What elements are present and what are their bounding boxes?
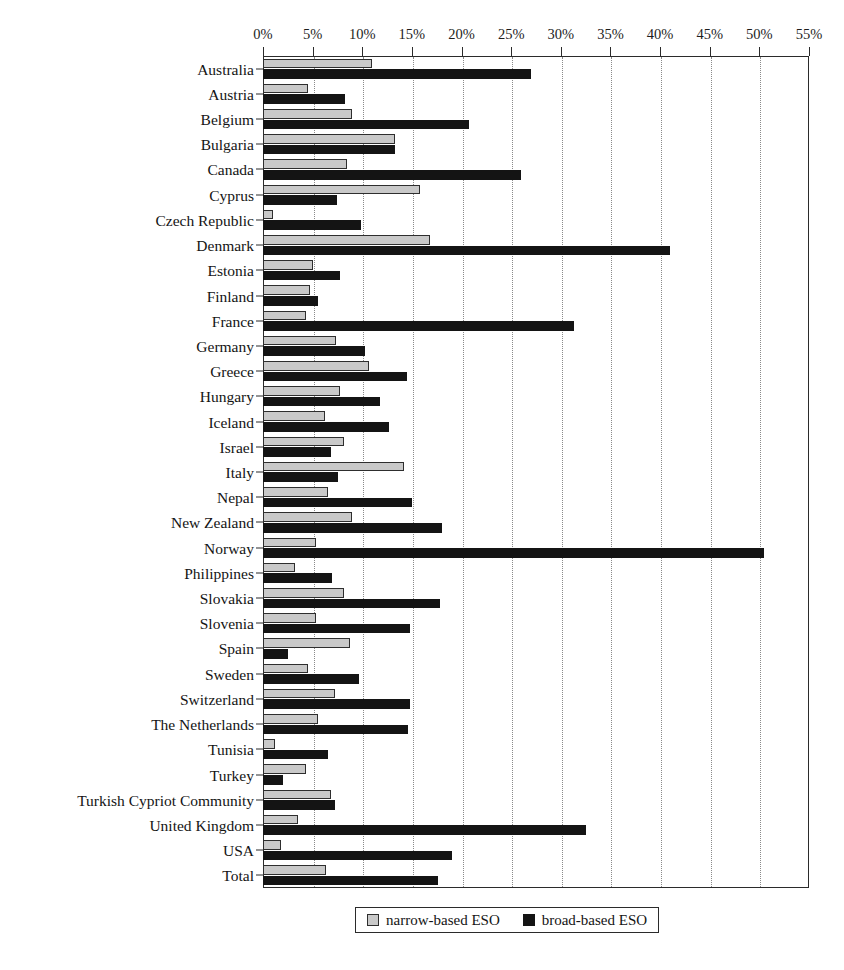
category-label: Estonia [208,262,255,279]
bar-group [263,106,844,131]
category-label: Canada [208,161,254,178]
bar-group [263,308,844,333]
bar-narrow-based-eso [263,689,335,699]
bar-group [263,560,844,585]
x-axis-tick-label: 50% [746,26,773,42]
chart-row: Slovakia [0,585,844,610]
y-axis-tick [256,219,263,220]
y-axis-tick [256,169,263,170]
bar-narrow-based-eso [263,210,273,220]
x-axis-tick [660,47,661,56]
bar-broad-based-eso [263,725,408,735]
bar-narrow-based-eso [263,790,331,800]
category-rows: AustraliaAustriaBelgiumBulgariaCanadaCyp… [0,56,844,888]
y-axis-tick [256,295,263,296]
chart-row: Finland [0,283,844,308]
bar-broad-based-eso [263,271,340,281]
bar-narrow-based-eso [263,235,430,245]
x-axis-tick-label: 20% [448,26,475,42]
y-axis-tick [256,68,263,69]
y-axis-tick [256,93,263,94]
category-label: Hungary [200,388,254,405]
category-label: Tunisia [208,741,254,758]
bar-narrow-based-eso [263,311,306,321]
chart-row: Greece [0,359,844,384]
chart-row: Total [0,863,844,888]
y-axis-tick [256,673,263,674]
bar-group [263,737,844,762]
bar-group [263,359,844,384]
bar-broad-based-eso [263,800,335,810]
chart-row: The Netherlands [0,712,844,737]
chart-row: USA [0,838,844,863]
bar-broad-based-eso [263,674,359,684]
bar-group [263,712,844,737]
bar-narrow-based-eso [263,437,344,447]
bar-broad-based-eso [263,876,438,886]
y-axis-tick [256,824,263,825]
category-label: Denmark [196,237,254,254]
x-axis-tick-label: 45% [696,26,723,42]
bar-narrow-based-eso [263,840,281,850]
category-label: Philippines [184,564,254,581]
bar-broad-based-eso [263,548,764,558]
category-label: Total [222,867,254,884]
bar-narrow-based-eso [263,739,275,749]
legend-swatch-narrow-icon [367,914,379,926]
y-axis-tick [256,598,263,599]
bar-group [263,838,844,863]
category-label: Italy [226,463,254,480]
bar-group [263,762,844,787]
bar-broad-based-eso [263,851,452,861]
x-axis-tick [610,47,611,56]
chart-row: Slovenia [0,611,844,636]
category-label: Israel [220,438,254,455]
chart-row: Philippines [0,560,844,585]
chart-row: Switzerland [0,686,844,711]
y-axis-tick [256,875,263,876]
y-axis-tick [256,572,263,573]
bar-group [263,535,844,560]
category-label: Switzerland [180,690,254,707]
x-axis-tick-labels: 0%5%10%15%20%25%30%35%40%45%50%55% [0,26,844,46]
bar-group [263,434,844,459]
y-axis-tick [256,446,263,447]
bar-group [263,787,844,812]
bar-group [263,182,844,207]
chart-row: United Kingdom [0,812,844,837]
legend-label-broad: broad-based ESO [542,912,647,928]
bar-broad-based-eso [263,447,331,457]
bar-narrow-based-eso [263,538,316,548]
bar-narrow-based-eso [263,815,298,825]
category-label: Cyprus [209,186,254,203]
chart-row: Belgium [0,106,844,131]
y-axis-tick [256,850,263,851]
chart-row: Hungary [0,384,844,409]
bar-group [263,232,844,257]
bar-broad-based-eso [263,120,469,130]
y-axis-tick [256,749,263,750]
bar-broad-based-eso [263,170,521,180]
bar-broad-based-eso [263,649,288,659]
y-axis-tick [256,698,263,699]
bar-group [263,81,844,106]
x-axis-tick [759,47,760,56]
y-axis-tick [256,144,263,145]
chart-row: Germany [0,333,844,358]
bar-broad-based-eso [263,246,670,256]
chart-row: France [0,308,844,333]
bar-group [263,459,844,484]
chart-row: Italy [0,459,844,484]
category-label: Austria [208,85,254,102]
y-axis-tick [256,774,263,775]
bar-group [263,333,844,358]
legend-entry-broad-based-eso: broad-based ESO [523,912,647,928]
bar-narrow-based-eso [263,613,316,623]
category-label: Spain [219,640,254,657]
x-axis-tick-label: 30% [548,26,575,42]
category-label: Australia [197,60,254,77]
legend-swatch-broad-icon [523,914,535,926]
y-axis-tick [256,119,263,120]
bar-broad-based-eso [263,472,338,482]
x-axis-tick-label: 35% [597,26,624,42]
